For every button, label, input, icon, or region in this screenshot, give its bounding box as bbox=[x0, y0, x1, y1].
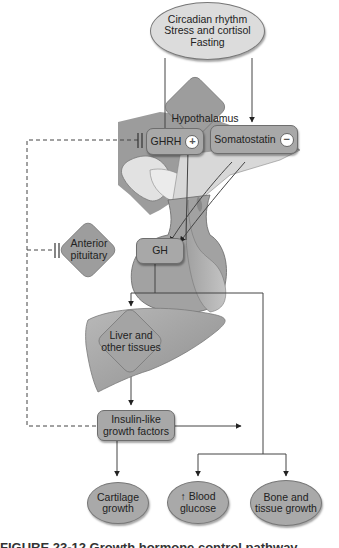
outcome-cartilage-line2: growth bbox=[102, 503, 134, 515]
anterior-pituitary-line1: Anterior bbox=[60, 238, 118, 250]
liver-line2: other tissues bbox=[96, 342, 166, 354]
igf-line2: growth factors bbox=[103, 426, 169, 438]
somatostatin-label: Somatostatin bbox=[214, 134, 275, 146]
ghrh-node: GHRH + bbox=[146, 128, 204, 155]
outcome-bone-tissue-growth: Bone and tissue growth bbox=[250, 480, 322, 526]
outcome-glucose-line2: glucose bbox=[180, 503, 216, 515]
outcome-cartilage-growth: Cartilage growth bbox=[87, 482, 149, 524]
igf-node: Insulin-like growth factors bbox=[97, 410, 175, 441]
anterior-pituitary-label: Anterior pituitary bbox=[60, 238, 118, 261]
hypothalamus-label: Hypothalamus bbox=[165, 113, 245, 125]
minus-circle-icon: − bbox=[280, 133, 294, 147]
liver-line1: Liver and bbox=[96, 330, 166, 342]
anterior-pituitary-line2: pituitary bbox=[60, 250, 118, 262]
outcome-blood-glucose: ↑ Blood glucose bbox=[167, 481, 229, 524]
outcome-bone-line2: tissue growth bbox=[255, 503, 317, 515]
ghrh-label: GHRH bbox=[151, 136, 182, 148]
stimuli-node: Circadian rhythm Stress and cortisol Fas… bbox=[150, 2, 265, 60]
figure-caption: FIGURE 23-12 Growth hormone control path… bbox=[0, 536, 339, 548]
diagram-connectors bbox=[0, 0, 339, 548]
stimulus-fasting: Fasting bbox=[190, 37, 224, 49]
gh-node: GH bbox=[136, 238, 184, 264]
gh-label: GH bbox=[152, 245, 168, 257]
outcome-glucose-line1: ↑ Blood bbox=[180, 491, 215, 503]
igf-line1: Insulin-like bbox=[111, 414, 161, 426]
plus-circle-icon: + bbox=[185, 135, 199, 149]
somatostatin-node: Somatostatin − bbox=[210, 125, 298, 154]
liver-label: Liver and other tissues bbox=[96, 330, 166, 353]
